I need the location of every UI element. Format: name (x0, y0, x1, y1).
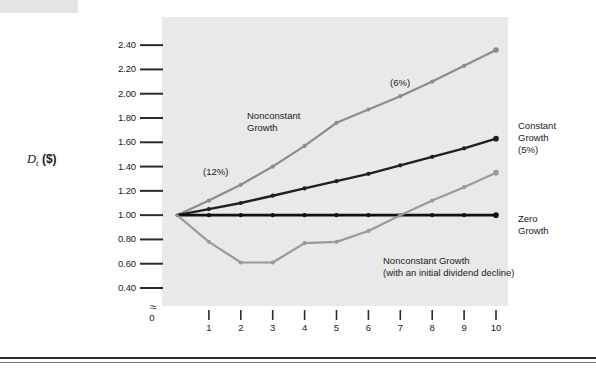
series-data-point (239, 260, 243, 264)
series-data-point (207, 213, 211, 217)
series-data-point (239, 201, 243, 205)
x-tick-marks (209, 310, 496, 320)
series-data-point (493, 47, 499, 53)
series-data-point (366, 172, 370, 176)
x-tick-label: 2 (228, 322, 254, 333)
y-tick-label: 1.20 (92, 185, 136, 196)
x-tick-label: 6 (355, 322, 381, 333)
series-data-point (207, 198, 211, 202)
x-tick-label: 8 (419, 322, 445, 333)
series-line (177, 50, 496, 215)
series-data-point (462, 64, 466, 68)
y-tick-label: 2.40 (92, 39, 136, 50)
series-data-point (334, 240, 338, 244)
series-data-point (303, 144, 307, 148)
series-data-point (462, 146, 466, 150)
x-tick-label: 4 (292, 322, 318, 333)
series-data-point (430, 213, 434, 217)
series-data-point (334, 121, 338, 125)
series-data-point (398, 163, 402, 167)
series-data-point (366, 213, 370, 217)
series-data-point (239, 213, 243, 217)
annotation-nonconstant-growth: Nonconstant Growth (247, 110, 300, 134)
series-data-point (398, 213, 402, 217)
series-points (207, 47, 499, 264)
series-data-point (303, 186, 307, 190)
series-line (177, 173, 496, 263)
x-tick-label: 9 (451, 322, 477, 333)
figure-container: Dt ($) ≈ 0 Nonconstant Growth (6%) (12%)… (0, 0, 596, 356)
series-data-point (207, 240, 211, 244)
annotation-rate-12: (12%) (203, 166, 228, 178)
series-data-point (462, 213, 466, 217)
annotation-constant-growth: Constant Growth (5%) (518, 120, 556, 156)
series-data-point (239, 183, 243, 187)
x-tick-label: 3 (260, 322, 286, 333)
series-data-point (462, 185, 466, 189)
series-data-point (271, 164, 275, 168)
y-tick-label: 2.00 (92, 88, 136, 99)
series-data-point (334, 213, 338, 217)
series-data-point (430, 155, 434, 159)
x-tick-label: 5 (324, 322, 350, 333)
x-tick-label: 7 (387, 322, 413, 333)
series-data-point (334, 179, 338, 183)
series-data-point (366, 229, 370, 233)
series-data-point (271, 194, 275, 198)
series-data-point (430, 198, 434, 202)
y-tick-label: 1.80 (92, 112, 136, 123)
series-data-point (366, 107, 370, 111)
footer-rule (0, 357, 596, 359)
series-data-point (207, 207, 211, 211)
series-data-point (271, 213, 275, 217)
y-tick-label: 0.60 (92, 258, 136, 269)
series-lines (177, 50, 496, 263)
x-tick-label: 10 (483, 322, 509, 333)
annotation-zero-growth: Zero Growth (518, 213, 549, 237)
chart-svg (0, 0, 596, 356)
y-tick-label: 1.00 (92, 209, 136, 220)
series-data-point (493, 170, 499, 176)
y-tick-marks (140, 45, 163, 288)
annotation-decline: Nonconstant Growth (with an initial divi… (383, 255, 515, 279)
series-data-point (430, 79, 434, 83)
y-tick-label: 2.20 (92, 63, 136, 74)
y-tick-label: 0.40 (92, 282, 136, 293)
series-data-point (493, 212, 499, 218)
series-data-point (303, 213, 307, 217)
x-tick-label: 1 (196, 322, 222, 333)
annotation-rate-6: (6%) (390, 77, 410, 89)
series-data-point (303, 241, 307, 245)
series-data-point (398, 94, 402, 98)
footer-rule-secondary (0, 362, 596, 363)
y-tick-label: 1.60 (92, 136, 136, 147)
series-data-point (271, 260, 275, 264)
series-data-point (493, 136, 499, 142)
y-tick-label: 0.80 (92, 233, 136, 244)
y-tick-label: 1.40 (92, 161, 136, 172)
